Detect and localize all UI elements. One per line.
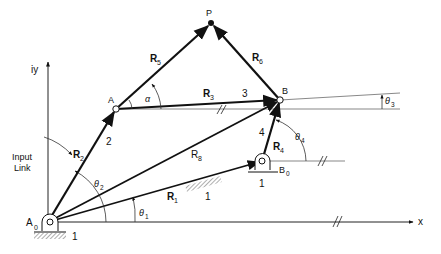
svg-text:4: 4: [280, 147, 284, 154]
y-axis-label: iy: [31, 64, 38, 75]
label-R2: R 2: [73, 149, 84, 162]
label-P: P: [206, 8, 212, 18]
input-link-label-line1: Input: [12, 152, 33, 162]
x-axis-label: x: [418, 216, 423, 227]
label-alpha: α: [145, 94, 151, 104]
ground-number-mid: 1: [205, 191, 211, 202]
svg-text:1: 1: [145, 213, 149, 220]
label-theta1: θ 1: [139, 208, 149, 220]
svg-text:2: 2: [80, 155, 84, 162]
vector-R8: [48, 102, 277, 222]
vector-R5: [116, 26, 208, 109]
theta2-arc: [75, 171, 106, 222]
svg-text:θ: θ: [385, 96, 390, 106]
svg-text:0: 0: [34, 224, 38, 231]
ground-number-B0: 1: [259, 178, 265, 189]
svg-text:θ: θ: [94, 179, 99, 189]
svg-text:3: 3: [210, 94, 214, 101]
svg-text:4: 4: [301, 137, 305, 144]
label-theta3: θ 3: [385, 96, 395, 108]
link-number-3: 3: [242, 88, 248, 99]
label-B0: B 0: [279, 165, 290, 177]
label-R1: R 1: [167, 191, 178, 204]
link-number-2: 2: [106, 136, 112, 147]
svg-text:3: 3: [391, 101, 395, 108]
joint-B: [277, 97, 283, 103]
svg-text:θ: θ: [295, 132, 300, 142]
label-R8: R 8: [191, 149, 202, 162]
svg-text:θ: θ: [139, 208, 144, 218]
svg-text:8: 8: [198, 155, 202, 162]
alpha-arc: [152, 84, 161, 109]
coupler-point-P: [208, 20, 214, 26]
parallel-mark-A: [217, 105, 226, 114]
label-R3: R 3: [203, 88, 214, 101]
x-axis: [48, 216, 413, 227]
label-A0: A 0: [26, 217, 38, 231]
ground-pivot-B0: [248, 154, 278, 173]
vector-R3: [116, 100, 277, 109]
label-R5: R 5: [150, 53, 161, 66]
label-R4: R 4: [273, 141, 284, 154]
joint-A: [113, 106, 119, 112]
ground-number-A0: 1: [72, 231, 78, 242]
svg-text:0: 0: [286, 170, 290, 177]
theta1-arc: [133, 197, 135, 222]
linkage-diagram: x iy P A B: [0, 0, 441, 254]
svg-text:B: B: [279, 165, 285, 175]
svg-text:1: 1: [174, 197, 178, 204]
label-B: B: [282, 86, 288, 96]
svg-text:2: 2: [100, 184, 104, 191]
label-R6: R 6: [252, 52, 263, 65]
label-theta4: θ 4: [295, 132, 305, 144]
input-link-label-line2: Link: [14, 163, 31, 173]
svg-text:5: 5: [157, 59, 161, 66]
label-A: A: [108, 95, 114, 105]
svg-text:6: 6: [259, 58, 263, 65]
link-number-4: 4: [259, 127, 265, 138]
svg-text:A: A: [26, 217, 33, 228]
